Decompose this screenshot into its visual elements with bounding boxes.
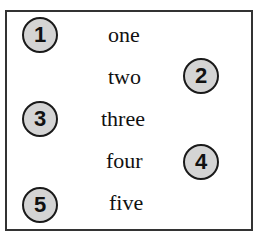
number-badge-4: 4: [183, 144, 219, 180]
word-four: four: [106, 150, 143, 172]
number-badge-1: 1: [22, 17, 58, 53]
word-two: two: [108, 66, 141, 88]
number-badge-2: 2: [183, 58, 219, 94]
number-badge-3: 3: [22, 101, 58, 137]
word-one: one: [108, 24, 140, 46]
word-three: three: [101, 108, 145, 130]
word-five: five: [109, 192, 143, 214]
number-badge-5: 5: [22, 187, 58, 223]
